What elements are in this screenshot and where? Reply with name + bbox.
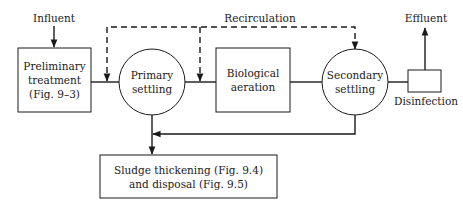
secondary-sludge-line xyxy=(153,115,355,134)
recirculation-label: Recirculation xyxy=(220,12,300,25)
disinfection-box xyxy=(408,70,441,92)
sludge-text: Sludge thickening (Fig. 9.4) and disposa… xyxy=(100,155,277,198)
effluent-label: Effluent xyxy=(400,12,452,25)
biological-aeration-text: Biological aeration xyxy=(216,48,290,112)
influent-label: Influent xyxy=(28,12,80,25)
primary-settling-text: Primary settling xyxy=(119,49,185,115)
secondary-settling-text: Secondary settling xyxy=(322,49,388,115)
disinfection-label: Disinfection xyxy=(393,95,459,108)
preliminary-treatment-text: Preliminary treatment (Fig. 9–3) xyxy=(18,48,91,112)
